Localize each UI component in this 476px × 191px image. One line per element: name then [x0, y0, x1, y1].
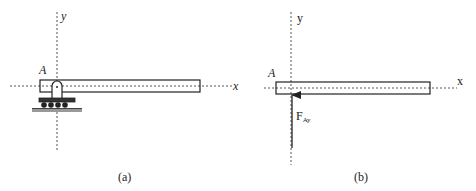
caption-b: (b) — [354, 170, 368, 184]
ground-hatch — [32, 109, 82, 112]
point-a-label-b: A — [267, 66, 276, 80]
point-a-label-a: A — [38, 63, 47, 77]
roller-icons — [41, 102, 68, 108]
support-plate — [39, 98, 75, 102]
y-label-b: y — [297, 11, 303, 25]
x-label-a: x — [232, 79, 239, 93]
y-label-a: y — [60, 9, 67, 23]
x-label-b: x — [457, 74, 463, 88]
beam-diagram: y x A (a) y x A FAy (b) — [0, 0, 476, 191]
force-label: FAy — [296, 109, 311, 124]
panel-a: y x A (a) — [10, 9, 239, 184]
pin-support-icon — [52, 81, 62, 99]
caption-a: (a) — [118, 170, 131, 184]
panel-b: y x A FAy (b) — [264, 11, 463, 184]
force-subscript: Ay — [303, 116, 311, 124]
